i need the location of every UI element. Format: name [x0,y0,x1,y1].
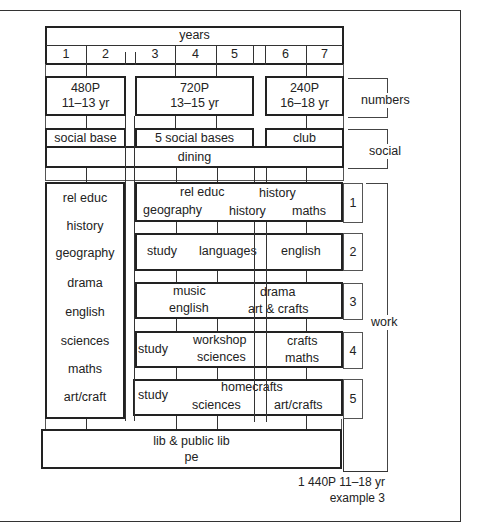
connector [176,222,177,233]
subject: art/crafts [274,398,323,413]
connector [217,168,218,182]
connector [217,271,218,282]
frame-right-line [460,10,461,522]
library-label: lib & public lib [153,433,229,449]
subject: history [45,219,125,234]
connector [254,222,255,422]
connector [306,64,307,76]
work-bracket-bottom [343,471,388,472]
caption-example: example 3 [280,491,385,506]
work-number-2: 2 [343,233,363,271]
ages: 13–15 yr [170,96,219,111]
connector [176,319,177,331]
subject: study [138,342,168,357]
connector [176,271,177,282]
years-divider [46,45,343,46]
connector [176,368,177,379]
numbers-column-line [343,419,344,471]
connector [266,168,267,182]
subject: languages [199,244,257,259]
subject: maths [292,204,326,219]
social-base-block: social base [45,128,126,148]
subject: history [229,204,266,219]
connector [306,222,307,233]
subject: crafts [287,334,318,349]
frame-bottom-line [0,521,461,522]
caption-total: 1 440P 11–18 yr [280,475,385,490]
work-number-4: 4 [343,332,363,369]
subject: sciences [192,398,241,413]
connector [217,222,218,233]
social-base-label: social base [54,131,117,145]
subject: study [147,244,177,259]
connector [217,368,218,379]
year-col-7: 7 [306,47,343,62]
club-block: club [265,128,344,148]
connector [306,271,307,282]
subject: rel educ [45,191,125,206]
subject: english [45,305,125,320]
connector [266,222,267,422]
subject: study [138,388,168,403]
year-col-2: 2 [86,47,125,62]
dining-block: dining [45,146,344,168]
work-block-3 [135,282,343,319]
connector [176,168,177,182]
connector [216,64,217,76]
work-number-5: 5 [343,379,363,419]
subject: rel educ [180,185,224,200]
subject: sciences [45,334,125,349]
connector [125,116,126,421]
count: 240P [290,81,319,96]
number: 1 [350,196,357,210]
connector [175,116,176,128]
club-label: club [293,131,316,145]
connector [86,64,87,76]
connector [306,368,307,379]
subject: history [259,186,296,201]
subject: maths [285,351,319,366]
subject: english [169,301,209,316]
frame-top-line [0,10,460,11]
ages: 11–13 yr [62,96,110,111]
year-col-5: 5 [216,47,253,62]
number: 3 [350,295,357,309]
library-pe-block: lib & public lib pe [41,429,342,469]
connector [217,319,218,331]
number: 2 [350,245,357,259]
work-number-3: 3 [343,283,363,320]
dining-label: dining [178,150,211,164]
subject: english [281,244,321,259]
number: 5 [350,392,357,406]
social-bases-block: 5 social bases [135,128,254,148]
subject: drama [45,276,125,291]
col-divider [253,45,254,65]
subject: homecrafts [221,380,283,395]
subject: art & crafts [248,302,308,317]
subject: geography [45,246,125,261]
numbers-block-720p: 720P 13–15 yr [135,76,254,116]
year-col-4: 4 [175,47,216,62]
pe-label: pe [185,449,199,465]
year-col-6: 6 [265,47,306,62]
subject: maths [45,362,125,377]
subject: sciences [197,350,246,365]
number: 4 [350,344,357,358]
subject: workshop [193,333,247,348]
numbers-block-240p: 240P 16–18 yr [265,76,344,116]
numbers-bracket-label: numbers [360,93,411,108]
subject: art/craft [45,390,125,405]
year-col-1: 1 [46,47,86,62]
connector [306,168,307,182]
count: 480P [71,81,100,96]
years-label: years [45,28,344,43]
connector [254,168,255,182]
connector [86,116,87,128]
connector [134,116,135,421]
social-bracket-label: social [368,144,402,159]
ages: 16–18 yr [280,96,329,111]
connector [306,319,307,331]
work-bracket-label: work [370,315,398,330]
social-bases-label: 5 social bases [155,131,234,145]
year-col-3: 3 [135,47,175,62]
